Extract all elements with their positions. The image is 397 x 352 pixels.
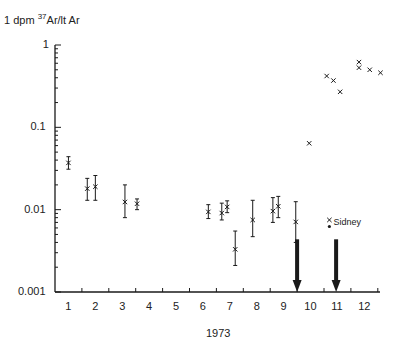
arrow-down-icon	[332, 280, 341, 292]
x-tick-label: 7	[227, 300, 233, 312]
x-tick-label: 11	[331, 300, 342, 312]
x-tick-label: 3	[119, 300, 125, 312]
x-axis-title: 1973	[206, 327, 230, 339]
x-tick-label: 9	[281, 300, 287, 312]
y-tick-label: 0.01	[24, 203, 45, 215]
x-tick-label: 2	[92, 300, 98, 312]
x-tick-label: 12	[358, 300, 370, 312]
x-tick-label: 4	[146, 300, 152, 312]
x-tick-label: 10	[304, 300, 316, 312]
x-tick-label: 5	[173, 300, 179, 312]
x-tick-label: 1	[65, 300, 71, 312]
y-tick-label: 0.001	[18, 285, 46, 297]
arrow-down-icon	[295, 239, 299, 282]
y-tick-label: 1	[43, 38, 49, 50]
arrow-down-icon	[334, 239, 338, 282]
sidney-dot	[328, 225, 331, 228]
x-tick-label: 8	[254, 300, 260, 312]
arrow-down-icon	[293, 280, 302, 292]
sidney-label: Sidney	[333, 217, 361, 227]
y-tick-label: 0.1	[30, 120, 45, 132]
x-tick-label: 6	[200, 300, 206, 312]
